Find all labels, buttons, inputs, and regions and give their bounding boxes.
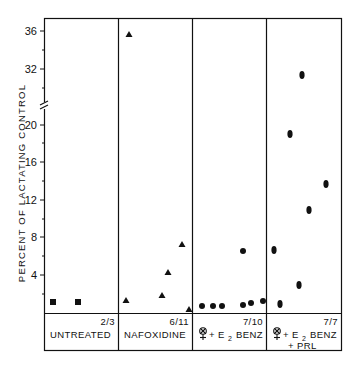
group-ratio: 7/7 [324,316,338,327]
axis-break-icon [40,101,49,109]
data-point [159,292,166,298]
data-point [299,71,304,79]
data-point [179,241,186,247]
tick-4: 4 [31,269,37,281]
data-point [165,269,172,275]
tick-36: 36 [25,25,37,37]
chart-frame [44,18,342,351]
data-point [296,281,301,289]
chart-figure: 36 32 20 16 12 8 4 PERCENT OF LACTATING … [0,0,361,370]
group-name: + E [209,329,225,340]
series-ovx-e2benz-prl [271,71,328,308]
group-ratio: 2/3 [101,316,115,327]
data-point [277,300,282,308]
data-point [248,300,254,306]
data-point [323,180,328,188]
y-axis-label: PERCENT OF LACTATING CONTROL [16,84,27,282]
data-point [219,303,225,309]
data-point [126,31,133,37]
data-point [75,299,81,305]
subscript: 2 [228,335,232,342]
data-point [50,299,56,305]
data-point [186,306,193,312]
series-untreated [50,299,81,305]
data-point [240,302,246,308]
group-label-untreated: 2/3 UNTREATED [50,316,115,340]
data-point [210,303,216,309]
data-point [199,303,205,309]
data-point [271,246,276,254]
group-name: UNTREATED [50,329,111,340]
group-name-b: BENZ [236,329,263,340]
group-name: NAFOXIDINE [124,329,186,340]
group-name: + E [283,329,299,340]
tick-32: 32 [25,63,37,75]
data-point [287,130,292,138]
ovariectomized-symbol-icon [200,328,207,340]
group-label-ovx-e2benz: 7/10 + E 2 BENZ [200,316,263,342]
series-nafoxidine [123,31,193,312]
series-ovx-e2benz [199,248,266,309]
group-ratio: 7/10 [243,316,263,327]
group-ratio: 6/11 [170,316,189,327]
group-label-ovx-e2benz-prl: 7/7 + E 2 BENZ + PRL [274,316,338,351]
group-name-b: BENZ [310,329,337,340]
group-name-line2: + PRL [288,340,317,351]
data-point [240,248,246,254]
data-point [306,206,311,214]
data-point [260,298,266,304]
y-axis-ticks [40,31,44,294]
ovariectomized-symbol-icon [274,328,281,340]
group-label-nafoxidine: 6/11 NAFOXIDINE [124,316,189,340]
tick-8: 8 [31,231,37,243]
data-point [123,297,130,303]
